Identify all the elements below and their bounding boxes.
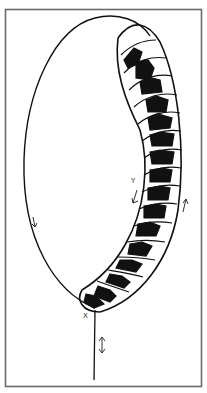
label-y: Y [130, 177, 136, 185]
label-x: X [83, 312, 88, 320]
band-segments [84, 40, 182, 308]
arrow-up-icon [183, 199, 188, 212]
arrow-down-left-icon [132, 190, 138, 203]
arrow-down-icon [32, 217, 37, 227]
arrow-up-down-icon [99, 337, 105, 353]
diagram-canvas: X Y [0, 0, 207, 393]
stalk-line [94, 310, 95, 380]
diagram-frame [6, 10, 202, 387]
